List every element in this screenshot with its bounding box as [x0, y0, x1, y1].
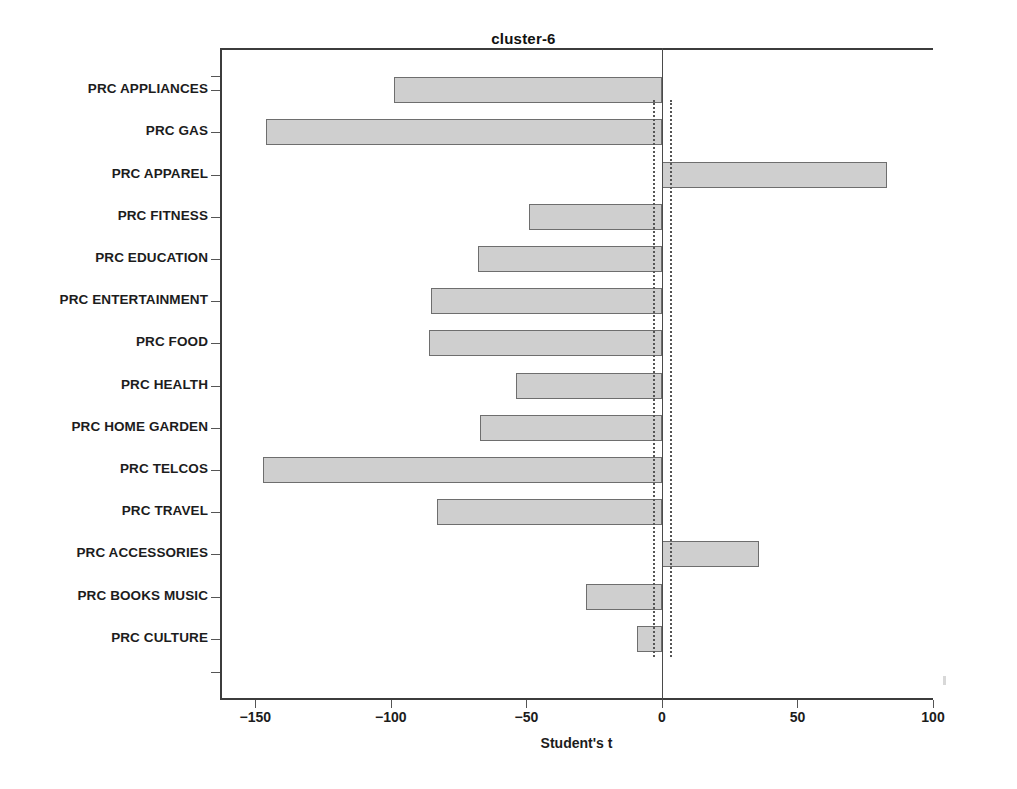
y-axis-tick-label: PRC BOOKS MUSIC	[8, 588, 208, 603]
y-axis-tick	[211, 554, 220, 555]
y-axis-labels: PRC APPLIANCESPRC GASPRC APPARELPRC FITN…	[0, 0, 208, 789]
bar	[437, 499, 662, 525]
bar	[662, 541, 760, 567]
y-axis-tick-label: PRC TELCOS	[8, 461, 208, 476]
significance-positive-line	[670, 100, 672, 657]
x-axis-tick-label: 0	[617, 709, 707, 725]
chart-figure: cluster-6 PRC APPLIANCESPRC GASPRC APPAR…	[0, 0, 1017, 789]
x-axis-tick	[933, 700, 934, 708]
y-axis-tick-label: PRC HOME GARDEN	[8, 419, 208, 434]
y-axis-tick-label: PRC APPAREL	[8, 166, 208, 181]
x-axis-tick	[797, 700, 798, 708]
y-axis-tick	[211, 132, 220, 133]
y-axis-tick-label: PRC FOOD	[8, 334, 208, 349]
bar	[394, 77, 662, 103]
y-axis-tick	[211, 512, 220, 513]
x-axis-tick	[255, 700, 256, 708]
y-axis-tick	[211, 639, 220, 640]
y-axis-tick	[211, 470, 220, 471]
x-axis-tick-label: 100	[888, 709, 978, 725]
bar	[478, 246, 662, 272]
significance-negative-line	[653, 100, 655, 657]
y-axis-tick	[211, 386, 220, 387]
x-axis-tick	[662, 700, 663, 708]
x-axis-tick-label: 50	[752, 709, 842, 725]
y-axis-tick-label: PRC TRAVEL	[8, 503, 208, 518]
bar	[263, 457, 662, 483]
bar	[480, 415, 662, 441]
bar	[637, 626, 661, 652]
x-axis-tick	[526, 700, 527, 708]
y-axis-tick-label: PRC ACCESSORIES	[8, 545, 208, 560]
y-axis-tick-label: PRC CULTURE	[8, 630, 208, 645]
y-axis-tick-label: PRC EDUCATION	[8, 250, 208, 265]
x-axis-tick-label: −150	[210, 709, 300, 725]
bar	[662, 162, 887, 188]
y-axis-tick	[211, 672, 220, 673]
y-axis-tick	[211, 597, 220, 598]
scan-artifact	[943, 676, 946, 685]
bar	[516, 373, 662, 399]
y-axis-tick	[211, 343, 220, 344]
y-axis-tick-label: PRC FITNESS	[8, 208, 208, 223]
y-axis-tick	[211, 301, 220, 302]
bar	[431, 288, 661, 314]
y-axis-tick-label: PRC ENTERTAINMENT	[8, 292, 208, 307]
y-axis-tick	[211, 90, 220, 91]
y-axis-tick	[211, 175, 220, 176]
x-axis-tick-label: −50	[481, 709, 571, 725]
y-axis-tick-label: PRC GAS	[8, 123, 208, 138]
bar	[529, 204, 662, 230]
bar	[266, 119, 662, 145]
y-axis-tick-label: PRC APPLIANCES	[8, 81, 208, 96]
y-axis-tick	[211, 259, 220, 260]
y-axis-tick-label: PRC HEALTH	[8, 377, 208, 392]
bar	[586, 584, 662, 610]
zero-axis-line	[662, 48, 663, 700]
bar	[429, 330, 662, 356]
x-axis-title: Student's t	[220, 735, 933, 751]
y-axis-tick	[211, 76, 220, 77]
y-axis-tick	[211, 217, 220, 218]
y-axis-tick	[211, 428, 220, 429]
x-axis-tick-label: −100	[346, 709, 436, 725]
x-axis-tick	[391, 700, 392, 708]
